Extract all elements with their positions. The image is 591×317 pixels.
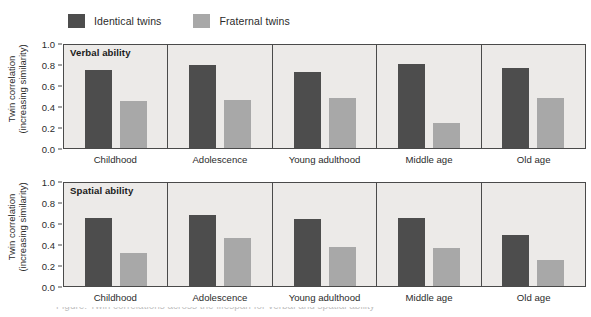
x-label: Young adulthood [272,154,377,165]
legend-entry-fraternal: Fraternal twins [193,14,289,28]
bar-fraternal [224,238,251,286]
y-tick-label: 0.4 [42,102,55,113]
y-tick: 0.0 [42,144,62,155]
y-tick-label: 0.0 [42,144,55,155]
y-tick: 0.6 [42,219,62,230]
x-label: Old age [481,292,586,303]
bar-identical [294,219,321,286]
y-tick-mark [58,65,62,66]
y-tick-mark [58,245,62,246]
bar-group [64,45,167,148]
y-tick-label: 0.0 [42,282,55,293]
y-tick-mark [58,86,62,87]
y-axis-title-line1: Twin correlation [6,56,17,123]
x-label: Middle age [377,292,482,303]
y-axis-title-line2: (increasing similarity) [17,167,28,287]
y-tick: 0.8 [42,60,62,71]
y-axis-title-line1: Twin correlation [6,194,17,261]
bar-group [481,183,585,286]
bar-fraternal [329,247,356,286]
y-tick: 1.0 [42,39,62,50]
y-tick-label: 0.2 [42,261,55,272]
bar-fraternal [329,98,356,148]
panel-spatial-ability: 1.00.80.60.40.20.0 Spatial ability [63,182,586,287]
y-axis-title-spatial: Twin correlation (increasing similarity) [6,167,28,287]
bar-group [272,45,376,148]
bar-identical [502,68,529,148]
y-tick-mark [58,128,62,129]
y-tick-label: 0.2 [42,123,55,134]
bar-fraternal [120,101,147,148]
y-tick-label: 0.4 [42,240,55,251]
y-tick-mark [58,224,62,225]
plot-area-verbal [63,44,586,149]
bar-identical [398,218,425,286]
x-label: Young adulthood [272,292,377,303]
bar-group [272,183,376,286]
y-tick-label: 0.6 [42,81,55,92]
panel-title-spatial: Spatial ability [70,185,133,196]
y-axis-title-verbal: Twin correlation (increasing similarity) [6,29,28,149]
legend-label-fraternal: Fraternal twins [219,15,289,27]
legend-label-identical: Identical twins [94,15,161,27]
figure-caption-clipped: Figure: Twin correlations across the lif… [56,307,526,317]
y-tick-mark [58,203,62,204]
y-tick: 0.8 [42,198,62,209]
x-label: Middle age [377,154,482,165]
x-label: Adolescence [168,154,273,165]
bar-identical [85,70,112,148]
y-tick-mark [58,266,62,267]
y-axis-title-line2: (increasing similarity) [17,29,28,149]
chart-legend: Identical twins Fraternal twins [0,10,591,32]
y-tick-label: 0.6 [42,219,55,230]
y-tick-mark [58,287,62,288]
bar-group [167,183,271,286]
y-tick-label: 1.0 [42,177,55,188]
y-tick: 0.2 [42,123,62,134]
bar-fraternal [537,260,564,286]
bar-group [376,183,480,286]
plot-area-spatial [63,182,586,287]
bar-identical [189,215,216,286]
bar-fraternal [120,253,147,286]
y-tick-mark [58,149,62,150]
y-tick-mark [58,107,62,108]
x-axis-labels-spatial: Childhood Adolescence Young adulthood Mi… [63,292,586,303]
panel-title-verbal: Verbal ability [70,47,131,58]
y-tick-label: 0.8 [42,60,55,71]
x-label: Old age [481,154,586,165]
y-tick: 0.4 [42,102,62,113]
y-tick-mark [58,182,62,183]
y-tick-mark [58,44,62,45]
bar-identical [502,235,529,286]
bar-group [167,45,271,148]
bar-fraternal [433,123,460,148]
x-label: Childhood [63,154,168,165]
x-axis-labels-verbal: Childhood Adolescence Young adulthood Mi… [63,154,586,165]
y-tick-label: 0.8 [42,198,55,209]
y-tick: 0.6 [42,81,62,92]
bar-identical [294,72,321,148]
bar-fraternal [433,248,460,286]
x-label: Childhood [63,292,168,303]
panel-verbal-ability: 1.00.80.60.40.20.0 Verbal ability [63,44,586,149]
bar-identical [189,65,216,148]
y-tick: 1.0 [42,177,62,188]
bar-fraternal [224,100,251,148]
bar-identical [85,218,112,286]
y-tick: 0.4 [42,240,62,251]
legend-entry-identical: Identical twins [68,14,161,28]
y-tick: 0.2 [42,261,62,272]
bar-group [481,45,585,148]
y-tick: 0.0 [42,282,62,293]
bar-identical [398,64,425,148]
caption-text: Figure: Twin correlations across the lif… [56,307,526,311]
legend-swatch-icon [193,14,210,28]
y-tick-label: 1.0 [42,39,55,50]
x-label: Adolescence [168,292,273,303]
bar-fraternal [537,98,564,148]
legend-swatch-icon [68,14,85,28]
bar-group [376,45,480,148]
bar-group [64,183,167,286]
